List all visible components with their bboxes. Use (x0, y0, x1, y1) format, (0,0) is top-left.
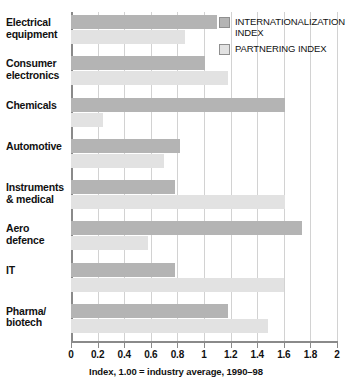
category-label: Automotive (6, 141, 65, 153)
chart-legend: INTERNATIONALIZATION INDEX PARTNERING IN… (219, 16, 347, 61)
x-tick (71, 343, 72, 348)
category-label-line1: Electrical (6, 16, 51, 28)
category-label-line1: Pharma/ (6, 305, 46, 317)
category-label-line1: Automotive (6, 140, 62, 152)
gridline (284, 12, 285, 342)
category-label-line2: electronics (6, 69, 59, 81)
category-label-line2: equipment (6, 28, 57, 40)
legend-swatch-icon (219, 44, 230, 55)
bar-partnering (71, 113, 103, 127)
bar-partnering (71, 319, 268, 333)
category-label: Electricalequipment (6, 17, 65, 40)
gridline (257, 12, 258, 342)
x-tick (337, 343, 338, 348)
x-tick-label: 1.8 (295, 349, 325, 360)
x-axis-caption: Index, 1.00 = industry average, 1990–98 (0, 366, 352, 377)
x-tick (124, 343, 125, 348)
legend-item-internationalization: INTERNATIONALIZATION INDEX (219, 16, 347, 38)
category-label-line2: biotech (6, 316, 42, 328)
x-tick-label: 1 (189, 349, 219, 360)
x-tick (310, 343, 311, 348)
legend-label-line1: INTERNATIONALIZATION (235, 16, 345, 27)
bar-internationalization (71, 221, 302, 235)
category-label-line2: defence (6, 234, 44, 246)
bar-internationalization (71, 15, 217, 29)
category-label-line2: & medical (6, 193, 54, 205)
x-tick (151, 343, 152, 348)
x-tick-label: 0.8 (162, 349, 192, 360)
x-tick (257, 343, 258, 348)
bar-partnering (71, 278, 284, 292)
x-tick (177, 343, 178, 348)
bar-partnering (71, 236, 148, 250)
gridline (337, 12, 338, 342)
bar-chart: 00.20.40.60.811.21.41.61.82 Electricaleq… (0, 0, 352, 386)
x-tick-label: 1.6 (269, 349, 299, 360)
legend-label-line1: PARTNERING INDEX (235, 43, 326, 54)
x-tick-label: 1.4 (242, 349, 272, 360)
category-label: Instruments& medical (6, 182, 65, 205)
x-tick-label: 2 (322, 349, 352, 360)
legend-item-partnering: PARTNERING INDEX (219, 43, 347, 56)
category-label: Chemicals (6, 100, 65, 112)
bar-partnering (71, 71, 228, 85)
bar-internationalization (71, 98, 285, 112)
bar-internationalization (71, 56, 205, 70)
bar-partnering (71, 30, 185, 44)
bar-internationalization (71, 304, 228, 318)
x-tick-label: 1.2 (216, 349, 246, 360)
category-label-line1: Aero (6, 222, 29, 234)
x-tick (231, 343, 232, 348)
category-label: IT (6, 265, 65, 277)
x-tick-label: 0.2 (83, 349, 113, 360)
bar-internationalization (71, 263, 175, 277)
legend-label-line2: INDEX (235, 27, 264, 38)
x-tick-label: 0.4 (109, 349, 139, 360)
category-label: Pharma/biotech (6, 306, 65, 329)
category-label-line1: Consumer (6, 57, 56, 69)
gridline (310, 12, 311, 342)
category-label: Aerodefence (6, 223, 65, 246)
category-label: Consumerelectronics (6, 58, 65, 81)
gridline (231, 12, 232, 342)
x-tick-label: 0 (56, 349, 86, 360)
x-tick (204, 343, 205, 348)
category-label-line1: IT (6, 264, 15, 276)
bar-partnering (71, 195, 285, 209)
category-label-line1: Instruments (6, 181, 64, 193)
bar-internationalization (71, 180, 175, 194)
bar-partnering (71, 154, 164, 168)
x-tick (98, 343, 99, 348)
x-tick-label: 0.6 (136, 349, 166, 360)
bar-internationalization (71, 139, 180, 153)
x-tick (284, 343, 285, 348)
category-label-line1: Chemicals (6, 99, 57, 111)
legend-swatch-icon (219, 17, 230, 28)
